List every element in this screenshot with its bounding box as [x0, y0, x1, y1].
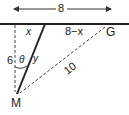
- vertical-length-label: 6: [7, 55, 13, 66]
- point-m-label: M: [11, 97, 21, 109]
- segment-x-label: x: [26, 27, 31, 37]
- segment-rest-label: 8−x: [65, 26, 83, 37]
- top-length-label: 8: [58, 3, 64, 14]
- angle-theta-arc: [15, 66, 27, 68]
- angle-theta-label: θ: [19, 55, 24, 65]
- point-g-label: G: [106, 26, 115, 38]
- geometry-diagram: 8 x 8−x G 6 θ y 10 M: [0, 0, 129, 115]
- path-y-label: y: [33, 54, 38, 64]
